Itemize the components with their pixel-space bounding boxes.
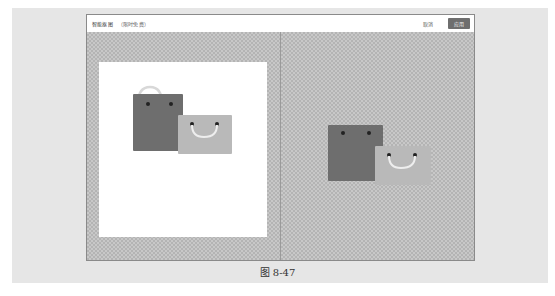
cutout-preview-panel: [281, 32, 474, 260]
dialog-title-text: 智能抠图: [92, 21, 113, 27]
bag-hole: [169, 102, 173, 106]
light-bag-handle-icon: [192, 125, 218, 141]
original-image: [99, 62, 267, 237]
figure-caption: 图 8-47: [0, 264, 555, 279]
light-shopping-bag: [375, 146, 431, 185]
light-bag-handle-icon: [389, 156, 415, 172]
original-preview-panel: [87, 32, 280, 260]
cancel-button[interactable]: 取消: [423, 20, 433, 27]
light-shopping-bag: [178, 115, 232, 154]
dialog-title: 智能抠图（限时免费）: [92, 20, 149, 27]
dialog-header: 智能抠图（限时免费） 取消 应用: [87, 15, 474, 32]
bag-hole: [146, 102, 150, 106]
smart-cutout-dialog: 智能抠图（限时免费） 取消 应用: [86, 14, 475, 261]
dark-shopping-bag: [133, 94, 183, 151]
dialog-subtitle: （限时免费）: [118, 21, 149, 27]
apply-button[interactable]: 应用: [448, 18, 470, 29]
bag-hole: [341, 131, 345, 135]
bag-hole: [367, 131, 371, 135]
